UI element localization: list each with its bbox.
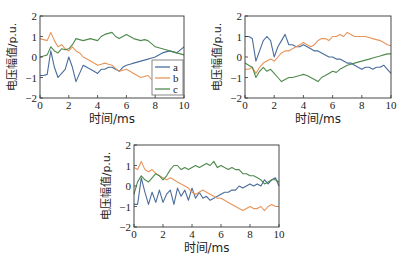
x-tick-label: 6 [218,228,224,240]
series-line-c [134,161,279,194]
x-tick-label: 2 [271,99,277,111]
x-tick-label: 2 [66,99,72,111]
x-tick-label: 4 [189,228,195,240]
x-tick-label: 0 [131,228,137,240]
y-tick-label: −2 [230,92,242,104]
chart-panel-top-left: 0246810210−1−2时间/ms电压幅值/p.u.abc [6,10,190,126]
x-tick-label: 8 [152,99,158,111]
y-tick-label: −1 [119,201,131,213]
y-tick-label: −2 [25,92,37,104]
x-tick-label: 4 [95,99,101,111]
y-axis-label: 电压幅值/p.u. [6,23,19,92]
y-tick-label: −1 [25,72,37,84]
y-tick-label: 0 [126,180,132,192]
plot-frame [245,16,391,98]
y-tick-label: 0 [32,51,38,63]
y-tick-label: −2 [119,221,131,233]
x-tick-label: 8 [247,228,253,240]
x-tick-label: 10 [179,99,191,111]
y-tick-label: 1 [32,31,38,43]
x-tick-label: 4 [301,99,307,111]
x-tick-label: 0 [37,99,43,111]
legend: abc [152,60,183,95]
x-axis-label: 时间/ms [89,112,135,126]
legend-label-c: c [173,83,178,95]
series-line-b [134,161,279,210]
x-tick-label: 10 [386,99,398,111]
x-tick-label: 0 [242,99,248,111]
y-tick-label: 2 [32,10,38,22]
y-tick-label: 2 [237,10,243,22]
series-line-a [134,178,279,205]
x-tick-label: 2 [160,228,166,240]
chart-panel-bottom: 0246810210−1−2时间/ms电压幅值/p.u. [100,139,285,255]
x-tick-label: 6 [124,99,130,111]
y-tick-label: 0 [237,51,243,63]
y-axis-label: 电压幅值/p.u. [211,23,224,92]
y-tick-label: 1 [237,31,243,43]
y-tick-label: 2 [126,139,132,151]
x-tick-label: 6 [330,99,336,111]
x-axis-label: 时间/ms [184,241,230,255]
y-tick-label: 1 [126,160,132,172]
x-tick-label: 10 [274,228,286,240]
x-axis-label: 时间/ms [295,112,341,126]
chart-panel-top-right: 0246810210−1−2时间/ms电压幅值/p.u. [211,10,397,126]
y-tick-label: −1 [230,72,242,84]
y-axis-label: 电压幅值/p.u. [100,152,113,221]
plot-frame [134,145,279,227]
x-tick-label: 8 [359,99,365,111]
chart-figure: 0246810210−1−2时间/ms电压幅值/p.u.abc024681021… [0,0,404,260]
